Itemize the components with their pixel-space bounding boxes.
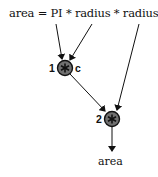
edge-radius-to-node2 xyxy=(117,24,139,110)
multiply-node-1 xyxy=(58,61,73,76)
output-label: area xyxy=(98,155,123,168)
edge-radius-to-node1 xyxy=(70,24,92,60)
edge-node1-to-node2 xyxy=(70,74,105,111)
dataflow-graph xyxy=(0,0,158,177)
node-1-number: 1 xyxy=(49,62,55,74)
multiply-node-2 xyxy=(105,112,120,127)
edge-pi-to-node1 xyxy=(56,24,62,59)
node-2-number: 2 xyxy=(96,113,102,125)
node-1-tag: c xyxy=(75,62,81,74)
